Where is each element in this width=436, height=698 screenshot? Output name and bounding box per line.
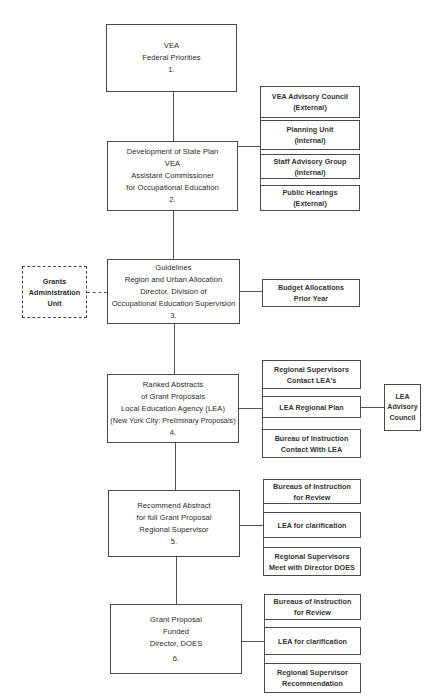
step-number: 6. [173,653,179,665]
lea-advisory-council: LEA Advisory Council [384,384,421,431]
input-vea-advisory-council: VEA Advisory Council (External) [260,86,360,118]
step-3-guidelines: Guidelines Region and Urban Allocation D… [107,259,240,324]
input-regional-supervisors-meet: Regional Supervisors Meet with Director … [263,547,361,576]
step-number: 3. [170,310,176,322]
label-line: Local Education Agency (LEA) [121,403,225,415]
step-4-ranked-abstracts: Ranked Abstracts of Grant Proposals Loca… [107,374,239,443]
label-line: Occupational Education Supervision [112,298,236,310]
label-line: Director, Division of [140,286,206,298]
label-line: Region and Urban Allocation [125,274,223,286]
label-line: of Grant Proposals [141,391,205,403]
connector-budget-allocations [240,291,262,292]
label-line: VEA [165,158,180,170]
label-line: (New York City: Preliminary Proposals) [110,415,235,427]
input-staff-advisory-group: Staff Advisory Group (Internal) [260,154,360,179]
step-number: 1. [168,64,174,76]
label-line: Ranked Abstracts [143,379,203,391]
connector-5-6 [176,557,177,604]
connector-4-5 [175,443,176,490]
label-line: for full Grant Proposal [136,512,211,524]
connector-lea-advisory-council [361,407,384,408]
input-lea-regional-plan: LEA Regional Plan [262,396,361,418]
step-1-federal-priorities: VEA Federal Priorities 1. [106,24,237,92]
step-number: 2. [169,194,175,206]
step-2-state-plan: Development of State Plan VEA Assistant … [107,141,238,211]
input-budget-allocations: Budget Allocations Prior Year [262,279,360,307]
input-bureaus-instruction-review-5: Bureaus of Instruction for Review [263,479,361,504]
label-line: Development of State Plan [127,146,219,158]
input-regional-supervisors-contact: Regional Supervisors Contact LEA's [262,360,361,389]
input-regional-supervisor-recommendation: Regional Supervisor Recommendation [264,663,361,693]
connector-step2-inputs [238,146,260,147]
connector-step5-inputs [240,525,263,526]
step-number: 4. [170,427,176,439]
input-lea-clarification-6: LEA for clarification [264,627,361,655]
input-bureau-instruction-contact: Bureau of Instruction Contact With LEA [262,429,361,458]
label-line: Guidelines [155,262,191,274]
label-line: Recommend Abstract [137,500,211,512]
connector-step6-inputs [242,641,264,642]
label-line: Assistant Commissioner [131,170,214,182]
label-line: Director, DOES [150,638,203,650]
step-6-grant-funded: Grant Proposal Funded Director, DOES 6. [110,604,242,674]
connector-grants-admin [87,292,107,293]
label-line: Funded [163,626,189,638]
connector-3-4 [174,324,175,374]
step-5-recommend-abstract: Recommend Abstract for full Grant Propos… [108,490,240,557]
label-line: Grant Proposal [150,614,202,626]
input-lea-clarification-5: LEA for clarification [263,512,361,538]
grants-administration-unit: Grants Administration Unit [22,266,87,318]
label-line: VEA [164,40,179,52]
connector-1-2 [173,92,174,141]
connector-2-3 [173,211,174,259]
connector-step4-inputs [239,408,262,409]
input-public-hearings: Public Hearings (External) [260,185,360,211]
step-number: 5. [171,536,177,548]
input-planning-unit: Planning Unit (Internal) [260,120,360,150]
label-line: Regional Supervisor [139,524,208,536]
label-line: Federal Priorities [142,52,200,64]
input-bureaus-instruction-review-6: Bureaus of Instruction for Review [264,594,361,620]
label-line: for Occupational Education [126,182,218,194]
